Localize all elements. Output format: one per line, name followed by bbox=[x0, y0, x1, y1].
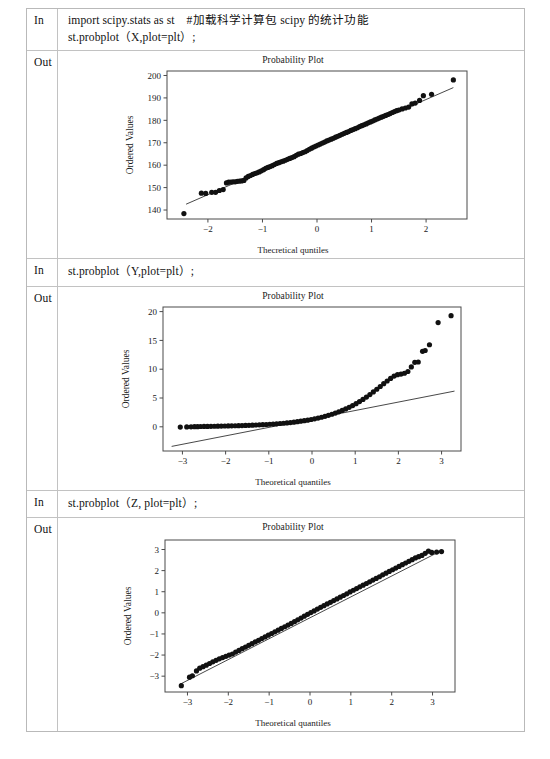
chart-canvas-2: −3−2−1012305101520Ordered Values bbox=[103, 301, 483, 479]
code-cell-3[interactable]: st.probplot（Z, plot=plt）; bbox=[58, 491, 524, 518]
output-cell-2: Probability Plot −3−2−1012305101520Order… bbox=[58, 287, 524, 490]
svg-text:1: 1 bbox=[369, 224, 374, 234]
svg-text:0: 0 bbox=[155, 608, 160, 618]
chart-xlabel-3: Theoretical quantiles bbox=[68, 718, 518, 728]
svg-text:15: 15 bbox=[148, 335, 158, 345]
svg-text:1: 1 bbox=[155, 587, 160, 597]
svg-text:5: 5 bbox=[153, 393, 158, 403]
cell-label-out-2: Out bbox=[27, 287, 58, 490]
chart-xlabel-2: Theoretical quantiles bbox=[68, 477, 518, 487]
code-cell-1[interactable]: import scipy.stats as st #加载科学计算包 scipy … bbox=[58, 9, 524, 50]
svg-text:3: 3 bbox=[439, 456, 444, 466]
probability-plot-3: Probability Plot −3−2−10123−3−2−10123Ord… bbox=[68, 522, 518, 728]
cell-label-out-1: Out bbox=[27, 51, 58, 258]
notebook-table: In import scipy.stats as st #加载科学计算包 sci… bbox=[26, 8, 525, 732]
probability-plot-2: Probability Plot −3−2−1012305101520Order… bbox=[68, 291, 518, 487]
svg-text:0: 0 bbox=[310, 456, 315, 466]
svg-text:−1: −1 bbox=[264, 697, 274, 707]
svg-text:Ordered Values: Ordered Values bbox=[125, 115, 135, 174]
svg-text:2: 2 bbox=[389, 697, 394, 707]
output-cell-1: Probability Plot −2−10121401501601701801… bbox=[58, 51, 524, 258]
chart-title-1: Probability Plot bbox=[68, 55, 518, 65]
svg-text:−3: −3 bbox=[149, 671, 159, 681]
svg-text:0: 0 bbox=[308, 697, 313, 707]
svg-text:Ordered Values: Ordered Values bbox=[123, 586, 133, 645]
table-row-out-1: Out Probability Plot −2−1012140150160170… bbox=[27, 51, 524, 259]
svg-text:−3: −3 bbox=[183, 697, 193, 707]
probability-plot-1: Probability Plot −2−10121401501601701801… bbox=[68, 55, 518, 255]
svg-text:10: 10 bbox=[148, 364, 158, 374]
svg-text:140: 140 bbox=[148, 205, 162, 215]
table-row-in-2: In st.probplot（Y,plot=plt）; bbox=[27, 259, 524, 287]
table-row-in-3: In st.probplot（Z, plot=plt）; bbox=[27, 491, 524, 519]
svg-text:0: 0 bbox=[315, 224, 320, 234]
svg-text:2: 2 bbox=[155, 566, 160, 576]
svg-text:190: 190 bbox=[148, 93, 162, 103]
chart-canvas-3: −3−2−10123−3−2−10123Ordered Values bbox=[103, 532, 483, 720]
svg-text:−1: −1 bbox=[258, 224, 268, 234]
svg-text:−2: −2 bbox=[224, 697, 234, 707]
table-row-in-1: In import scipy.stats as st #加载科学计算包 sci… bbox=[27, 9, 524, 51]
chart-title-3: Probability Plot bbox=[68, 522, 518, 532]
svg-text:150: 150 bbox=[148, 183, 162, 193]
svg-text:20: 20 bbox=[148, 306, 158, 316]
chart-canvas-1: −2−1012140150160170180190200Ordered Valu… bbox=[103, 65, 483, 247]
cell-label-in-1: In bbox=[27, 9, 58, 50]
output-cell-3: Probability Plot −3−2−10123−3−2−10123Ord… bbox=[58, 518, 524, 731]
svg-text:180: 180 bbox=[148, 116, 162, 126]
svg-text:−3: −3 bbox=[178, 456, 188, 466]
svg-text:170: 170 bbox=[148, 138, 162, 148]
document-page: In import scipy.stats as st #加载科学计算包 sci… bbox=[0, 0, 550, 759]
cell-label-out-3: Out bbox=[27, 518, 58, 731]
svg-text:3: 3 bbox=[155, 545, 160, 555]
svg-text:−2: −2 bbox=[221, 456, 231, 466]
svg-text:3: 3 bbox=[430, 697, 435, 707]
table-row-out-2: Out Probability Plot −3−2−1012305101520O… bbox=[27, 287, 524, 491]
svg-text:Ordered Values: Ordered Values bbox=[121, 349, 131, 408]
cell-label-in-3: In bbox=[27, 491, 58, 518]
chart-xlabel-1: Thecretical quntiles bbox=[68, 245, 518, 255]
svg-text:200: 200 bbox=[148, 71, 162, 81]
code-line-1-2: st.probplot（X,plot=plt）; bbox=[68, 30, 518, 47]
code-line-1-1: import scipy.stats as st #加载科学计算包 scipy … bbox=[68, 13, 518, 30]
svg-text:2: 2 bbox=[396, 456, 401, 466]
chart-title-2: Probability Plot bbox=[68, 291, 518, 301]
svg-text:1: 1 bbox=[353, 456, 358, 466]
svg-text:160: 160 bbox=[148, 160, 162, 170]
code-line-2-1: st.probplot（Y,plot=plt）; bbox=[68, 264, 518, 281]
svg-text:1: 1 bbox=[349, 697, 354, 707]
svg-text:0: 0 bbox=[153, 422, 158, 432]
table-row-out-3: Out Probability Plot −3−2−10123−3−2−1012… bbox=[27, 518, 524, 731]
svg-text:2: 2 bbox=[424, 224, 429, 234]
cell-label-in-2: In bbox=[27, 259, 58, 286]
code-cell-2[interactable]: st.probplot（Y,plot=plt）; bbox=[58, 259, 524, 286]
svg-text:−2: −2 bbox=[149, 650, 159, 660]
svg-text:−1: −1 bbox=[149, 629, 159, 639]
svg-text:−1: −1 bbox=[264, 456, 274, 466]
svg-text:−2: −2 bbox=[203, 224, 213, 234]
code-line-3-1: st.probplot（Z, plot=plt）; bbox=[68, 496, 518, 513]
